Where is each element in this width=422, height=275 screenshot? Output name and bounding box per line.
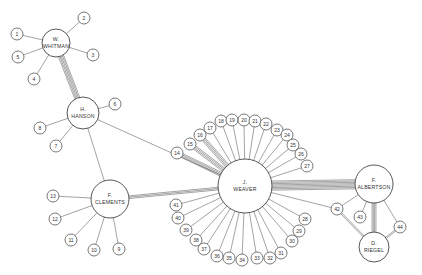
node-30[interactable]: 30: [286, 235, 298, 247]
node-label: 34: [239, 257, 245, 263]
hub-name: ALBERTSON: [357, 184, 390, 190]
hub-hanson[interactable]: H.HANSON: [67, 97, 99, 129]
node-17[interactable]: 17: [204, 122, 216, 134]
hub-name: CLEMENTS: [95, 199, 125, 205]
node-label: 18: [218, 118, 224, 124]
node-label: 33: [254, 255, 260, 261]
node-2[interactable]: 2: [78, 12, 90, 24]
node-label: 40: [175, 215, 181, 221]
node-label: 30: [289, 238, 295, 244]
node-label: 39: [183, 227, 189, 233]
node-label: 43: [357, 214, 363, 220]
hub-initial: F.: [372, 177, 376, 183]
hub-initial: H.: [80, 106, 86, 112]
node-label: 9: [118, 246, 121, 252]
hub-name: WEAVER: [233, 186, 256, 192]
hub-initial: J.: [243, 179, 247, 185]
node-34[interactable]: 34: [236, 254, 248, 266]
node-5[interactable]: 5: [12, 51, 24, 63]
node-label: 21: [252, 118, 258, 124]
node-label: 41: [173, 202, 179, 208]
node-13[interactable]: 13: [47, 190, 59, 202]
node-40[interactable]: 40: [172, 212, 184, 224]
node-label: 26: [298, 151, 304, 157]
hubs-layer: W.WHITMANH.HANSONF.CLEMENTSJ.WEAVERF.ALB…: [42, 29, 393, 262]
node-22[interactable]: 22: [260, 118, 272, 130]
node-label: 23: [274, 127, 280, 133]
node-33[interactable]: 33: [251, 252, 263, 264]
node-label: 12: [52, 216, 58, 222]
node-1[interactable]: 1: [11, 28, 23, 40]
node-label: 17: [207, 125, 213, 131]
node-label: 44: [397, 224, 403, 230]
node-19[interactable]: 19: [226, 114, 238, 126]
node-label: 15: [187, 141, 193, 147]
node-label: 29: [296, 228, 302, 234]
node-label: 2: [83, 15, 86, 21]
hub-clements[interactable]: F.CLEMENTS: [91, 180, 129, 218]
node-label: 1: [16, 31, 19, 37]
node-label: 7: [55, 143, 58, 149]
node-36[interactable]: 36: [211, 250, 223, 262]
node-21[interactable]: 21: [249, 115, 261, 127]
node-16[interactable]: 16: [194, 129, 206, 141]
hub-riegel[interactable]: D.RIEGEL: [359, 232, 389, 262]
node-label: 10: [91, 247, 97, 253]
node-20[interactable]: 20: [238, 114, 250, 126]
node-label: 19: [229, 117, 235, 123]
node-11[interactable]: 11: [65, 234, 77, 246]
node-18[interactable]: 18: [215, 115, 227, 127]
node-label: 28: [302, 216, 308, 222]
node-31[interactable]: 31: [275, 247, 287, 259]
node-12[interactable]: 12: [49, 213, 61, 225]
node-8[interactable]: 8: [34, 122, 46, 134]
node-6[interactable]: 6: [109, 98, 121, 110]
node-label: 36: [214, 253, 220, 259]
node-label: 42: [334, 206, 340, 212]
node-32[interactable]: 32: [264, 252, 276, 264]
node-label: 31: [278, 250, 284, 256]
hub-weaver[interactable]: J.WEAVER: [218, 159, 272, 213]
node-15[interactable]: 15: [184, 138, 196, 150]
hub-whitman[interactable]: W.WHITMAN: [42, 29, 70, 57]
node-label: 37: [201, 246, 207, 252]
node-label: 11: [68, 237, 73, 243]
sociogram-diagram: 1234567891011121314151617181920212223242…: [0, 0, 422, 275]
hub-albertson[interactable]: F.ALBERTSON: [355, 165, 393, 203]
node-4[interactable]: 4: [28, 73, 40, 85]
node-label: 14: [174, 150, 180, 156]
hub-initial: F.: [108, 192, 112, 198]
node-38[interactable]: 38: [190, 234, 202, 246]
node-29[interactable]: 29: [293, 225, 305, 237]
node-44[interactable]: 44: [394, 221, 406, 233]
hub-name: RIEGEL: [364, 247, 384, 253]
node-28[interactable]: 28: [299, 213, 311, 225]
edges-layer: [17, 18, 400, 260]
node-label: 25: [290, 142, 296, 148]
node-label: 5: [17, 54, 20, 60]
node-label: 20: [241, 117, 247, 123]
node-label: 22: [263, 121, 269, 127]
node-42[interactable]: 42: [331, 203, 343, 215]
network-canvas: 1234567891011121314151617181920212223242…: [0, 0, 422, 275]
node-9[interactable]: 9: [113, 243, 125, 255]
node-27[interactable]: 27: [301, 160, 313, 172]
node-10[interactable]: 10: [88, 244, 100, 256]
node-14[interactable]: 14: [171, 147, 183, 159]
nodes-layer: 1234567891011121314151617181920212223242…: [11, 12, 406, 266]
node-label: 13: [50, 193, 56, 199]
hub-name: WHITMAN: [43, 43, 69, 49]
node-7[interactable]: 7: [50, 140, 62, 152]
node-35[interactable]: 35: [223, 252, 235, 264]
node-label: 8: [39, 125, 42, 131]
node-label: 24: [284, 132, 290, 138]
hub-initial: W.: [53, 36, 59, 42]
node-3[interactable]: 3: [87, 49, 99, 61]
node-26[interactable]: 26: [295, 148, 307, 160]
node-label: 4: [33, 76, 36, 82]
node-label: 6: [114, 101, 117, 107]
node-41[interactable]: 41: [170, 199, 182, 211]
node-39[interactable]: 39: [180, 224, 192, 236]
node-43[interactable]: 43: [354, 211, 366, 223]
hub-name: HANSON: [71, 113, 94, 119]
